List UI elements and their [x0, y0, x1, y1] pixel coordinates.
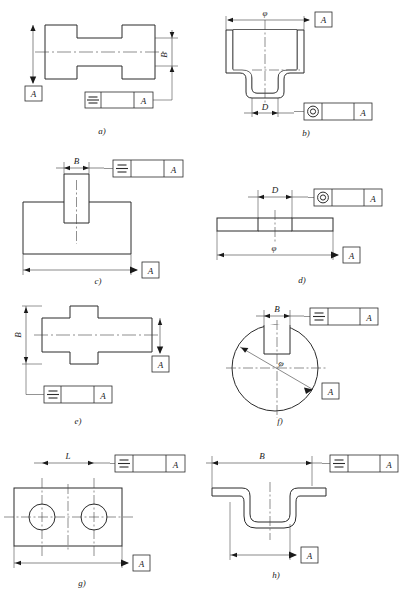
- part-outline-c: [23, 174, 131, 254]
- feature-control-frame-d: A: [314, 189, 382, 206]
- arrowhead-b-phi-left: [227, 18, 233, 23]
- part-section-d-left: [217, 218, 258, 231]
- arrowhead-h-B-left: [212, 461, 218, 465]
- arrowhead-c-B-left: [64, 166, 70, 170]
- datum-letter-c: A: [147, 266, 154, 276]
- leader-e: [26, 364, 44, 395]
- figure-a: A B A a): [0, 0, 204, 150]
- arrowhead-e-A-top: [158, 319, 162, 325]
- frame-datum-letter-b: A: [359, 108, 366, 118]
- figure-label-d: d): [282, 275, 322, 285]
- feature-control-frame-e: A: [44, 386, 112, 403]
- datum-triangle-c: [130, 267, 138, 274]
- figure-c: B A A c): [0, 150, 204, 295]
- datum-triangle-d: [331, 252, 339, 259]
- dim-label-b-phi: φ: [263, 8, 268, 18]
- leader-a: [153, 74, 172, 100]
- feature-control-frame-c: A: [113, 160, 183, 177]
- figure-label-b: b): [286, 128, 326, 138]
- frame-datum-letter-g: A: [172, 460, 179, 470]
- datum-letter-f: A: [327, 387, 334, 397]
- arrowhead-b-phi-right: [304, 18, 310, 23]
- frame-datum-letter-h: A: [385, 460, 392, 470]
- arrowhead-a-B-top: [170, 32, 175, 38]
- figure-g: L A A g): [0, 440, 204, 605]
- frame-datum-letter-a: A: [140, 96, 147, 106]
- datum-letter-a: A: [30, 89, 37, 99]
- dim-label-f-phi: φ: [277, 358, 286, 369]
- frame-datum-letter-f: A: [365, 313, 372, 323]
- arrowhead-b-D-right: [272, 111, 278, 115]
- arrowhead-h-A-left: [231, 553, 237, 557]
- feature-control-frame-h: A: [330, 455, 398, 472]
- figure-label-h: h): [256, 570, 296, 580]
- frame-datum-letter-e: A: [99, 391, 106, 401]
- dim-label-h-B: B: [259, 451, 265, 461]
- arrowhead-a-B-bot: [170, 66, 175, 72]
- part-outline-h-outer: [212, 488, 326, 522]
- arrowhead-e-B-bot: [24, 357, 28, 363]
- arrowhead-g-L-right: [88, 461, 94, 465]
- figure-e: B A A e): [0, 290, 204, 440]
- dim-label-d-D: D: [271, 185, 279, 195]
- arrowhead-h-B-right: [306, 461, 312, 465]
- dim-label-d-phi: φ: [272, 243, 277, 253]
- arrowhead-d-D-right: [286, 195, 292, 199]
- feature-control-frame-g: A: [115, 455, 185, 472]
- figure-label-a: a): [82, 126, 122, 136]
- feature-control-frame-f: A: [310, 308, 378, 325]
- dim-label-b-D: D: [261, 102, 269, 112]
- datum-triangle-h: [289, 552, 297, 559]
- datum-letter-h: A: [306, 551, 313, 561]
- part-outline-h-inner: [212, 496, 326, 528]
- figure-b: φ A D A b): [204, 0, 408, 150]
- arrowhead-c-A-left: [24, 268, 30, 272]
- dim-label-a-B: B: [159, 52, 169, 58]
- dim-label-f-B: B: [274, 304, 280, 314]
- feature-control-frame-b: A: [304, 103, 372, 120]
- dim-label-g-L: L: [64, 451, 70, 461]
- part-section-d-right: [292, 218, 333, 231]
- arrowhead-d-phi-left: [218, 253, 224, 257]
- datum-triangle-a: [30, 77, 36, 85]
- figure-f: B A φ A f): [204, 290, 408, 440]
- figure-label-e: e): [58, 416, 98, 426]
- dim-label-c-B: B: [74, 156, 80, 166]
- arrowhead-f-B-right: [284, 314, 290, 318]
- frame-datum-letter-c: A: [170, 165, 177, 175]
- datum-letter-g: A: [138, 559, 145, 569]
- frame-datum-letter-d: A: [369, 194, 376, 204]
- arrowhead-d-D-left: [258, 195, 264, 199]
- figure-d: D A φ A d): [204, 150, 408, 295]
- figure-label-c: c): [78, 276, 118, 286]
- dim-label-e-B: B: [13, 332, 23, 338]
- arrowhead-g-A-left: [15, 561, 21, 565]
- datum-letter-b: A: [320, 15, 327, 25]
- arrowhead-g-L-left: [42, 461, 48, 465]
- arrowhead-f-phi-start: [241, 348, 248, 353]
- arrowhead-c-B-right: [83, 166, 89, 170]
- feature-control-frame-a: A: [85, 92, 153, 108]
- arrowhead-b-D-left: [252, 111, 258, 115]
- figure-h: B A A h): [204, 440, 408, 605]
- arrowhead-f-B-left: [264, 314, 270, 318]
- datum-triangle-g: [121, 560, 129, 567]
- datum-letter-e: A: [157, 360, 164, 370]
- datum-triangle-e: [157, 347, 163, 355]
- figure-label-f: f): [260, 416, 300, 426]
- arrowhead-a-left-top: [30, 25, 35, 31]
- figure-label-g: g): [62, 578, 102, 588]
- datum-letter-d: A: [348, 251, 355, 261]
- arrowhead-e-B-top: [24, 307, 28, 313]
